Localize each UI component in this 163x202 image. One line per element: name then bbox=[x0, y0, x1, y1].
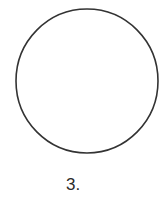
circle-figure: 3. bbox=[0, 0, 163, 202]
circle-icon bbox=[0, 0, 163, 202]
figure-label: 3. bbox=[66, 175, 96, 195]
